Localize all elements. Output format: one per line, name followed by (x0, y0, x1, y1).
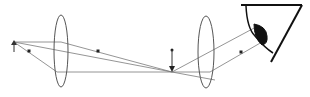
focal-point-dot (97, 50, 100, 53)
focal-point-dot (28, 50, 31, 53)
image-arrow-icon (169, 49, 175, 73)
objective-rays (14, 42, 215, 80)
eye-icon (241, 5, 302, 62)
focal-point-dot (240, 51, 243, 54)
optical-ray-diagram (0, 0, 310, 97)
eyepiece-lens (198, 16, 214, 88)
eyepiece-rays (172, 27, 262, 72)
